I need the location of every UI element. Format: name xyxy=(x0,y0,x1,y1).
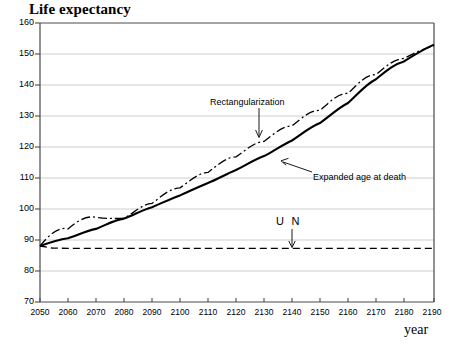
x-tick-label-2100: 2100 xyxy=(165,307,195,317)
x-tick-label-2190: 2190 xyxy=(417,307,447,317)
x-tick-label-2130: 2130 xyxy=(249,307,279,317)
arrow-un xyxy=(289,229,295,248)
arrow-expanded-age-at-death xyxy=(281,158,312,172)
series-line-un xyxy=(40,246,434,248)
annotation-un: U N xyxy=(276,215,302,227)
series-line-rectangularization xyxy=(40,46,434,246)
y-tick-label-90: 90 xyxy=(10,234,34,244)
x-tick-label-2070: 2070 xyxy=(81,307,111,317)
y-tick-label-160: 160 xyxy=(10,17,34,27)
x-tick-label-2160: 2160 xyxy=(333,307,363,317)
x-tick-label-2180: 2180 xyxy=(389,307,419,317)
x-tick-label-2090: 2090 xyxy=(137,307,167,317)
chart-figure: Life expectancy year 160 150 140 130 120… xyxy=(0,0,451,344)
x-tick-label-2120: 2120 xyxy=(221,307,251,317)
annotation-rectangularization: Rectangularization xyxy=(210,97,285,107)
x-tick-label-2060: 2060 xyxy=(53,307,83,317)
y-tick-label-110: 110 xyxy=(10,172,34,182)
axis-frame xyxy=(40,23,434,302)
x-tick-label-2170: 2170 xyxy=(361,307,391,317)
series-line-expanded-age-at-death xyxy=(40,45,434,246)
y-tick-label-80: 80 xyxy=(10,265,34,275)
y-tick-label-70: 70 xyxy=(10,296,34,306)
x-tick-label-2080: 2080 xyxy=(109,307,139,317)
y-tick-marks xyxy=(35,23,40,302)
arrow-rectangularization xyxy=(256,108,263,138)
x-axis-title: year xyxy=(404,322,428,338)
arrow-expanded-head xyxy=(281,158,289,165)
y-tick-label-130: 130 xyxy=(10,110,34,120)
arrow-expanded-shaft xyxy=(283,162,312,172)
x-tick-label-2150: 2150 xyxy=(305,307,335,317)
x-tick-label-2110: 2110 xyxy=(193,307,223,317)
y-tick-label-100: 100 xyxy=(10,203,34,213)
y-tick-label-140: 140 xyxy=(10,79,34,89)
y-tick-label-120: 120 xyxy=(10,141,34,151)
page-title: Life expectancy xyxy=(29,1,131,18)
y-tick-label-150: 150 xyxy=(10,48,34,58)
x-tick-label-2050: 2050 xyxy=(25,307,55,317)
annotation-expanded-age-at-death: Expanded age at death xyxy=(313,172,406,182)
x-tick-label-2140: 2140 xyxy=(277,307,307,317)
gridlines xyxy=(40,54,434,271)
